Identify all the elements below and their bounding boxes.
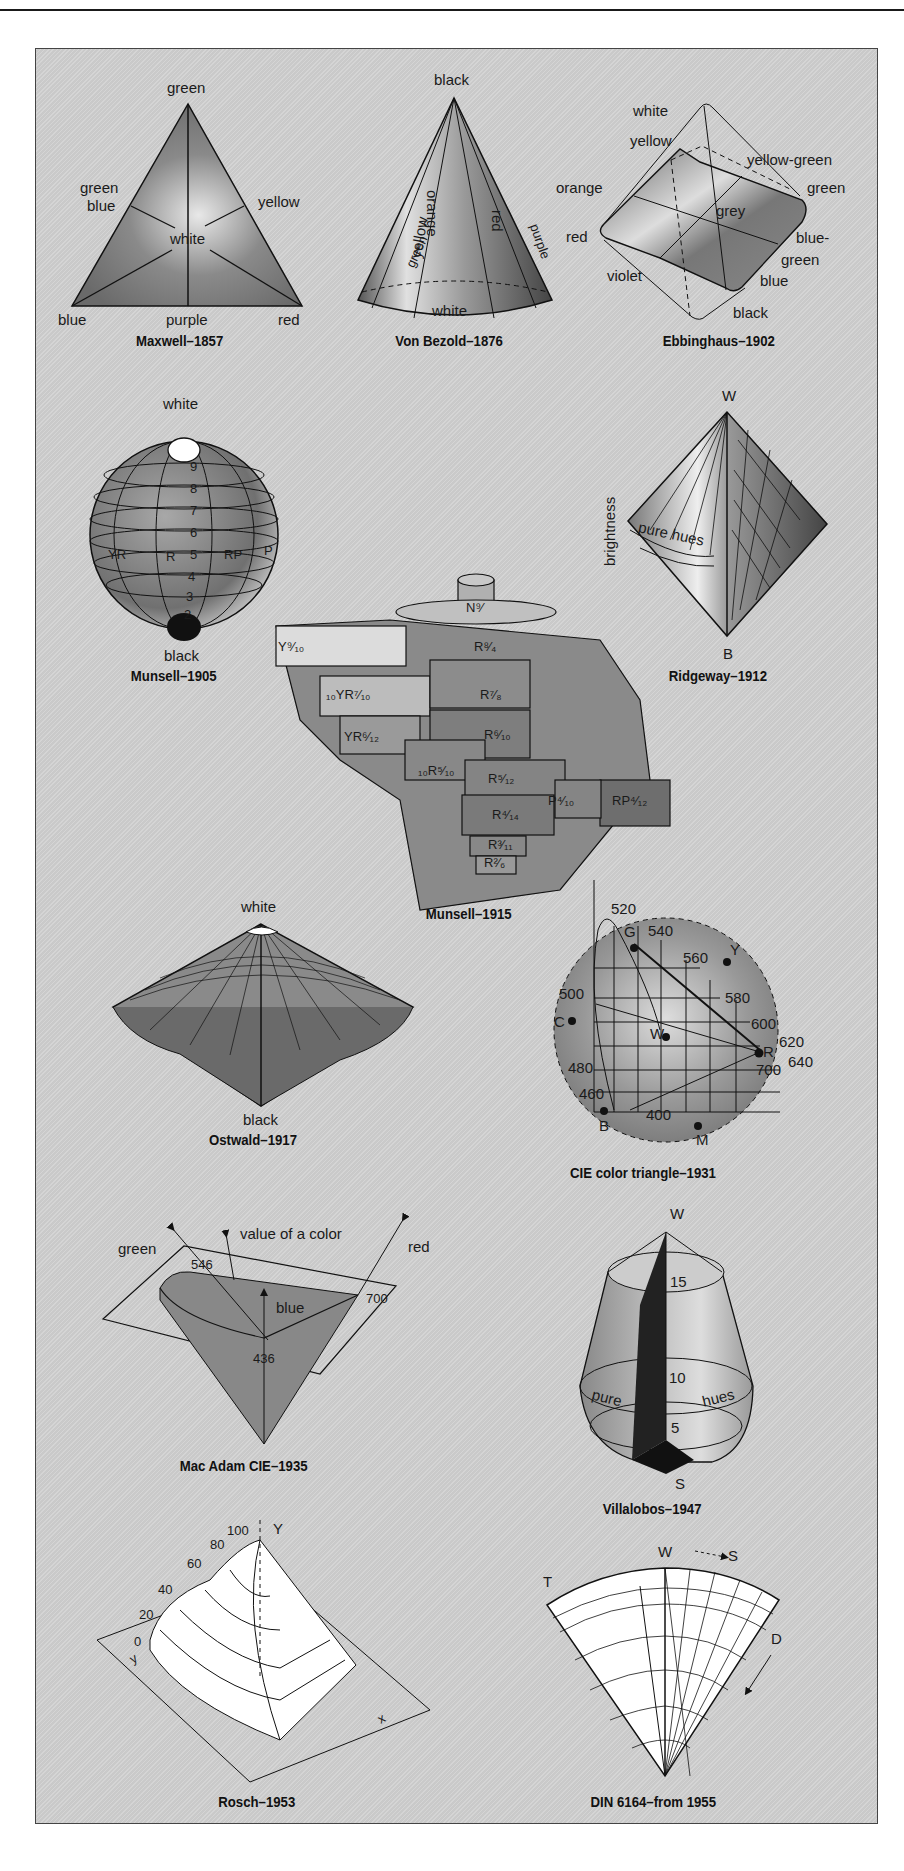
caption-villalobos: Villalobos–1947 [603, 1501, 702, 1516]
munsell1915-label-r5-12: R⁵⁄₁₂ [488, 772, 514, 785]
caption-vonbezold: Von Bezold–1876 [395, 333, 503, 348]
munsell1905-hue-r: R [166, 550, 175, 563]
munsell1915-label-10yr7-10: ₁₀YR⁷⁄₁₀ [326, 688, 371, 701]
cie-label-w: W [650, 1026, 664, 1041]
maxwell-label-green: green [167, 80, 205, 95]
munsell1905-hue-yr: YR [108, 548, 126, 561]
cie-label-460: 460 [579, 1086, 604, 1101]
ebbinghaus-label-blue: blue [760, 273, 788, 288]
munsell1915-label-rp4-12: RP⁴⁄₁₂ [612, 794, 647, 807]
ostwald-double-cone [113, 924, 413, 1106]
munsell1905-value-9: 9 [190, 460, 197, 473]
munsell1915-label-n9: N⁹⁄ [466, 601, 483, 614]
ostwald-label-black: black [243, 1112, 278, 1127]
ebbinghaus-label-blue-green-1: blue- [796, 230, 829, 245]
cie-label-580: 580 [725, 990, 750, 1005]
munsell1905-label-white: white [163, 396, 198, 411]
cie-label-480: 480 [568, 1060, 593, 1075]
cie-label-520: 520 [611, 901, 636, 916]
din-label-s: S [728, 1548, 738, 1563]
rosch-tick-100: 100 [227, 1524, 249, 1537]
rosch-tick-20: 20 [139, 1608, 153, 1621]
cie-label-400: 400 [646, 1107, 671, 1122]
ebbinghaus-label-orange: orange [556, 180, 603, 195]
ebbinghaus-label-grey: grey [716, 203, 745, 218]
munsell1905-hue-rp: RP [224, 548, 242, 561]
cie-label-600: 600 [751, 1016, 776, 1031]
cie-label-y: Y [730, 942, 740, 957]
ebbinghaus-label-black: black [733, 305, 768, 320]
macadam-label-green: green [118, 1241, 156, 1256]
vonbezold-label-orange: orange [425, 190, 440, 237]
caption-ridgeway: Ridgeway–1912 [669, 668, 767, 683]
munsell1915-label-10r5-10: ₁₀R⁵⁄₁₀ [418, 764, 455, 777]
caption-rosch: Rosch–1953 [218, 1794, 295, 1809]
caption-maxwell: Maxwell–1857 [136, 333, 223, 348]
munsell1915-label-r2-6: R²⁄₆ [484, 856, 505, 869]
maxwell-label-green-blue-2: blue [87, 198, 115, 213]
cie-label-c: C [554, 1014, 565, 1029]
cie-label-m: M [696, 1132, 709, 1147]
munsell1905-value-3: 3 [186, 590, 193, 603]
cie-label-640: 640 [788, 1054, 813, 1069]
villalobos-label-10: 10 [669, 1370, 686, 1385]
cie-label-r: R [763, 1044, 774, 1059]
din-label-d: D [771, 1631, 782, 1646]
maxwell-label-yellow: yellow [258, 194, 300, 209]
munsell1905-value-2: 2 [184, 608, 191, 621]
villalobos-label-w: W [670, 1206, 684, 1221]
macadam-label-blue: blue [276, 1300, 304, 1315]
maxwell-label-purple: purple [166, 312, 208, 327]
villalobos-label-15: 15 [670, 1274, 687, 1289]
cie-label-g: G [624, 924, 636, 939]
munsell1905-label-black: black [164, 648, 199, 663]
caption-cie1931: CIE color triangle–1931 [570, 1165, 716, 1180]
ridgeway-label-b: B [723, 646, 733, 661]
munsell1905-hue-p: P [264, 544, 273, 557]
macadam-label-436: 436 [253, 1352, 275, 1365]
rosch-tick-0: 0 [134, 1635, 141, 1648]
munsell1915-label-p4-10: P⁴⁄₁₀ [548, 794, 574, 807]
villalobos-label-5: 5 [671, 1420, 679, 1435]
munsell1905-value-6: 6 [190, 526, 197, 539]
ebbinghaus-label-yellow: yellow [630, 133, 672, 148]
von-bezold-cone [358, 98, 552, 318]
caption-ebbinghaus: Ebbinghaus–1902 [663, 333, 775, 348]
cie-label-560: 560 [683, 950, 708, 965]
vonbezold-label-white: white [432, 303, 467, 318]
rosch-tick-40: 40 [158, 1583, 172, 1596]
vonbezold-label-red: red [490, 210, 505, 232]
cie-label-500: 500 [559, 986, 584, 1001]
munsell1915-label-yr6-12: YR⁶⁄₁₂ [344, 730, 379, 743]
macadam-label-700: 700 [366, 1292, 388, 1305]
din-label-w: W [658, 1544, 672, 1559]
ebbinghaus-label-blue-green-2: green [781, 252, 819, 267]
rosch-surface [97, 1520, 430, 1782]
vonbezold-label-black: black [434, 72, 469, 87]
munsell1905-value-8: 8 [190, 482, 197, 495]
ridgeway-label-brightness: brightness [602, 497, 617, 566]
cie-label-b: B [599, 1118, 609, 1133]
munsell1915-label-r6-10: R⁶⁄₁₀ [484, 728, 511, 741]
caption-din: DIN 6164–from 1955 [591, 1794, 716, 1809]
cie-label-700: 700 [756, 1062, 781, 1077]
macadam-label-red: red [408, 1239, 430, 1254]
munsell1905-value-5: 5 [190, 548, 197, 561]
cie-label-540: 540 [648, 923, 673, 938]
ebbinghaus-label-violet: violet [607, 268, 642, 283]
maxwell-label-green-blue-1: green [80, 180, 118, 195]
caption-munsell1905: Munsell–1905 [131, 668, 217, 683]
villalobos-label-s: S [675, 1476, 685, 1491]
munsell1915-label-y9-10: Y⁹⁄₁₀ [278, 640, 304, 653]
munsell1915-label-r8-4: R⁸⁄₄ [474, 640, 496, 653]
macadam-label-value: value of a color [240, 1226, 342, 1241]
munsell1905-value-7: 7 [190, 504, 197, 517]
munsell1915-label-r7-8: R⁷⁄₈ [480, 688, 502, 701]
maxwell-label-blue: blue [58, 312, 86, 327]
maxwell-label-red: red [278, 312, 300, 327]
munsell1915-label-r4-14: R⁴⁄₁₄ [492, 808, 519, 821]
munsell-1915-tree [276, 574, 670, 910]
ebbinghaus-label-white: white [633, 103, 668, 118]
ebbinghaus-label-green: green [807, 180, 845, 195]
ebbinghaus-label-yellow-green: yellow-green [747, 152, 832, 167]
